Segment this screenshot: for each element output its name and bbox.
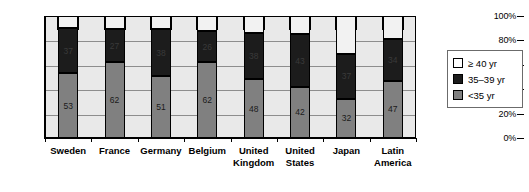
chart-root: 1053371162271151381262261448381542433132…: [0, 0, 529, 192]
bar-segment[interactable]: 38: [151, 29, 171, 75]
bar-segment[interactable]: 32: [336, 99, 356, 138]
legend: ≥ 40 yr35–39 yr<35 yr: [447, 50, 523, 108]
bar-column[interactable]: 105337: [45, 16, 91, 138]
y-tick-mark: [517, 40, 524, 41]
x-tick-mark: [323, 138, 324, 142]
white-swatch-icon: [453, 58, 463, 68]
bar-segment[interactable]: 62: [105, 62, 125, 138]
x-tick-mark: [277, 138, 278, 142]
bar-segment[interactable]: 37: [336, 54, 356, 99]
bar-column[interactable]: 126226: [184, 16, 230, 138]
bar-segment[interactable]: 53: [58, 73, 78, 138]
x-tick-label: Japan: [323, 145, 369, 157]
legend-item[interactable]: 35–39 yr: [453, 71, 517, 87]
bar-segment[interactable]: [105, 16, 125, 29]
bar-segment[interactable]: 37: [58, 28, 78, 73]
y-tick-label: 100%: [494, 11, 516, 21]
x-tick-labels: SwedenFranceGermanyBelgiumUnitedKingdomU…: [45, 145, 416, 187]
stacked-bar[interactable]: 3237: [336, 16, 356, 138]
stacked-bar[interactable]: 4734: [383, 16, 403, 138]
x-tick-mark: [138, 138, 139, 142]
bar-segment[interactable]: [151, 16, 171, 29]
bar-segment[interactable]: [244, 16, 264, 33]
bar-segment[interactable]: 26: [197, 31, 217, 63]
stacked-bar[interactable]: 4243: [290, 16, 310, 138]
x-tick-label: Germany: [138, 145, 184, 157]
x-tick-label: Sweden: [45, 145, 91, 157]
x-tick-mark: [45, 138, 46, 142]
bar-segment[interactable]: [336, 16, 356, 54]
legend-item-label: ≥ 40 yr: [468, 58, 497, 69]
x-tick-label: LatinAmerica: [370, 145, 416, 168]
x-tick-label: France: [91, 145, 137, 157]
bar-segment[interactable]: 62: [197, 62, 217, 138]
bar-column[interactable]: 194734: [370, 16, 416, 138]
bar-column[interactable]: 115138: [138, 16, 184, 138]
bar-segment[interactable]: 27: [105, 29, 125, 62]
bar-segment[interactable]: [290, 16, 310, 34]
x-tick-label: UnitedKingdom: [231, 145, 277, 168]
stacked-bar[interactable]: 6227: [105, 16, 125, 138]
x-tick-mark: [231, 138, 232, 142]
bar-segment[interactable]: 48: [244, 79, 264, 138]
legend-item-label: <35 yr: [468, 90, 495, 101]
bar-segment[interactable]: 42: [290, 87, 310, 138]
legend-item[interactable]: <35 yr: [453, 87, 517, 103]
bar-segment[interactable]: 47: [383, 81, 403, 138]
stacked-bar[interactable]: 4838: [244, 16, 264, 138]
bar-column[interactable]: 154243: [277, 16, 323, 138]
y-tick-mark: [517, 138, 524, 139]
y-tick-label: 80%: [499, 35, 516, 45]
x-tick-mark: [370, 138, 371, 142]
stacked-bar[interactable]: 6226: [197, 16, 217, 138]
bar-group: 1053371162271151381262261448381542433132…: [45, 16, 416, 138]
bar-segment[interactable]: [383, 16, 403, 39]
y-axis: [0, 0, 46, 160]
y-tick-label: 20%: [499, 109, 516, 119]
gray-swatch-icon: [453, 90, 463, 100]
y-tick-mark: [517, 114, 524, 115]
black-swatch-icon: [453, 74, 463, 84]
bar-segment[interactable]: 38: [244, 33, 264, 79]
y-tick-mark: [517, 16, 524, 17]
stacked-bar[interactable]: 5337: [58, 16, 78, 138]
bar-segment[interactable]: [58, 16, 78, 28]
legend-item[interactable]: ≥ 40 yr: [453, 55, 517, 71]
bar-segment[interactable]: 43: [290, 34, 310, 86]
bar-segment[interactable]: 34: [383, 39, 403, 80]
x-tick-mark: [184, 138, 185, 142]
y-tick-label: 0%: [503, 133, 516, 143]
x-tick-label: UnitedStates: [277, 145, 323, 168]
stacked-bar[interactable]: 5138: [151, 16, 171, 138]
x-tick-label: Belgium: [184, 145, 230, 157]
bar-segment[interactable]: [197, 16, 217, 31]
legend-item-label: 35–39 yr: [468, 74, 505, 85]
bar-column[interactable]: 116227: [91, 16, 137, 138]
bar-column[interactable]: 144838: [231, 16, 277, 138]
x-tick-mark: [416, 138, 417, 142]
x-tick-mark: [91, 138, 92, 142]
bar-segment[interactable]: 51: [151, 76, 171, 138]
bar-column[interactable]: 313237: [323, 16, 369, 138]
